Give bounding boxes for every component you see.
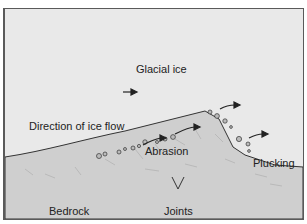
diagram-frame: Glacial ice Direction of ice flow Abrasi… xyxy=(3,8,304,220)
label-flow-direction: Direction of ice flow xyxy=(29,120,124,132)
label-joints: Joints xyxy=(164,205,193,217)
label-plucking: Plucking xyxy=(253,157,295,169)
label-glacial-ice: Glacial ice xyxy=(136,63,187,75)
label-abrasion: Abrasion xyxy=(145,145,188,157)
label-bedrock: Bedrock xyxy=(49,205,89,217)
glacier-diagram xyxy=(5,9,303,219)
